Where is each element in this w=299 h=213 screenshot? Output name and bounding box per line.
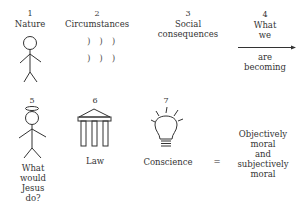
item-2-label: Circumstances bbox=[60, 19, 134, 30]
haloed-stick-figure-icon bbox=[16, 106, 50, 162]
item-5-label-line-1: What bbox=[8, 163, 58, 174]
item-4-label-bottom-1: are bbox=[240, 52, 290, 63]
item-5-label-line-4: do? bbox=[8, 193, 58, 204]
stick-figure-icon bbox=[16, 36, 46, 88]
arrow-right-icon bbox=[238, 44, 298, 52]
item-7-label: Conscience bbox=[138, 157, 198, 168]
item-5-label-line-2: would bbox=[8, 173, 58, 184]
equals-sign: = bbox=[210, 157, 224, 168]
circumstance-marks-row-1: ) ) ) bbox=[87, 36, 118, 46]
result-line-3: and bbox=[228, 149, 298, 160]
item-4-number: 4 bbox=[253, 10, 277, 21]
item-3-label-line-2: consequences bbox=[150, 29, 226, 40]
light-bulb-icon bbox=[150, 106, 186, 150]
item-5-number: 5 bbox=[20, 96, 44, 107]
item-1-label: Nature bbox=[5, 19, 55, 30]
item-3-number: 3 bbox=[176, 9, 200, 20]
pillared-building-icon bbox=[77, 107, 113, 149]
result-line-5: moral bbox=[228, 169, 298, 180]
item-1-number: 1 bbox=[18, 9, 42, 20]
result-line-4: subjectively bbox=[228, 159, 298, 170]
result-line-2: moral bbox=[228, 139, 298, 150]
result-line-1: Objectively bbox=[228, 129, 298, 140]
item-7-number: 7 bbox=[154, 96, 178, 107]
item-3-label-line-1: Social bbox=[150, 19, 226, 30]
item-2-number: 2 bbox=[85, 9, 109, 20]
item-4-label-bottom-2: becoming bbox=[240, 62, 290, 73]
item-6-number: 6 bbox=[83, 96, 107, 107]
item-4-label-top-2: we bbox=[240, 30, 290, 41]
item-4-label-top-1: What bbox=[240, 20, 290, 31]
item-6-label: Law bbox=[70, 156, 120, 167]
circumstance-marks-row-2: ) ) ) bbox=[87, 53, 118, 63]
item-5-label-line-3: Jesus bbox=[8, 183, 58, 194]
